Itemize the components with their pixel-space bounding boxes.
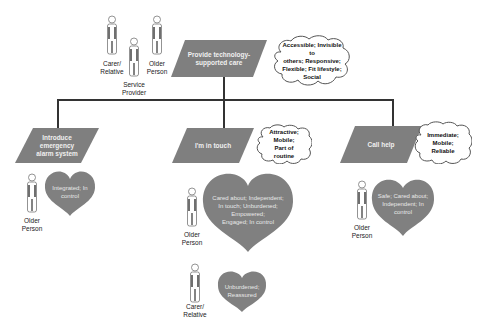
text-line: Independent; In: [377, 200, 429, 208]
text-line: supported care: [188, 59, 250, 67]
text-line: Immediate;: [422, 131, 464, 139]
goal-provide-technology-supported-care: Provide technology-supported care: [171, 40, 267, 77]
label-line: Service: [114, 81, 154, 89]
text-line: Social: [279, 73, 345, 81]
text-line: Integrated; In: [50, 184, 90, 192]
person-icon-older-person: [185, 187, 199, 231]
label-line: Relative: [175, 311, 215, 319]
qualities-text: Accessible; Invisible toothers; Responsi…: [271, 34, 353, 87]
text-line: Part of routine: [264, 144, 304, 160]
label-line: Person: [12, 225, 52, 233]
feeling-text: Cared about; Independent;In touch; Unbur…: [202, 194, 294, 226]
connector-horizontal: [57, 99, 393, 101]
label-older-person: OlderPerson: [12, 217, 52, 233]
label-line: Older: [12, 217, 52, 225]
feeling-heart-integrated: Integrated; Incontrol: [44, 170, 96, 216]
text-line: Mobile; Reliable: [422, 139, 464, 155]
connector-root-down: [223, 76, 225, 99]
label-line: Carer/: [175, 303, 215, 311]
goal-introduce-emergency-alarm-system: Introduce emergencyalarm system: [15, 128, 99, 163]
text-line: control: [377, 208, 429, 216]
goal-text: Introduce emergencyalarm system: [15, 128, 99, 163]
goal-im-in-touch: I'm in touch: [172, 128, 254, 163]
qualities-text: Attractive; Mobile;Part of routine: [256, 124, 312, 164]
text-line: Accessible; Invisible to: [279, 41, 345, 57]
qualities-cloud-root: Accessible; Invisible toothers; Responsi…: [271, 34, 353, 87]
text-line: alarm system: [31, 150, 83, 158]
label-line: Carer/: [92, 60, 132, 68]
connector-middle-down: [223, 99, 225, 128]
feeling-heart-safe: Safe; Cared about;Independent; Incontrol: [371, 178, 435, 236]
text-line: Introduce emergency: [31, 134, 83, 150]
text-line: Safe; Cared about;: [377, 192, 429, 200]
feeling-text: Safe; Cared about;Independent; Incontrol: [371, 192, 435, 216]
person-icon-older-person: [150, 15, 164, 59]
goal-call-help: Call help: [340, 126, 422, 163]
person-icon-older-person: [25, 173, 39, 217]
text-line: Attractive; Mobile;: [264, 128, 304, 144]
feeling-text: Unburdened;Reassured: [217, 283, 267, 299]
label-line: Relative: [92, 68, 132, 76]
connector-left-down: [57, 99, 59, 128]
person-icon-older-person: [355, 180, 369, 224]
goal-text: Provide technology-supported care: [171, 40, 267, 77]
text-line: Flexible; Fit lifestyle;: [279, 65, 345, 73]
text-line: others; Responsive;: [279, 57, 345, 65]
text-line: Provide technology-: [188, 51, 250, 59]
label-service-provider: ServiceProvider: [114, 81, 154, 97]
text-line: In touch; Unburdened;: [208, 202, 288, 210]
text-line: Engaged; In control: [208, 218, 288, 226]
feeling-heart-unburdened: Unburdened;Reassured: [217, 270, 267, 312]
goal-text: I'm in touch: [172, 128, 254, 163]
goal-text: Call help: [340, 126, 422, 163]
text-line: control: [50, 192, 90, 200]
qualities-cloud-call-help: Immediate;Mobile; Reliable: [414, 121, 472, 164]
feeling-heart-cared-about: Cared about; Independent;In touch; Unbur…: [202, 172, 294, 252]
person-icon-carer-relative: [188, 263, 202, 307]
text-line: Empowered;: [208, 210, 288, 218]
text-line: Cared about; Independent;: [208, 194, 288, 202]
person-icon-carer-relative: [105, 15, 119, 59]
feeling-text: Integrated; Incontrol: [44, 184, 96, 200]
text-line: Reassured: [223, 291, 261, 299]
connector-right-down: [392, 99, 394, 128]
label-carer-relative: Carer/Relative: [92, 60, 132, 76]
qualities-text: Immediate;Mobile; Reliable: [414, 121, 472, 164]
qualities-cloud-im-in-touch: Attractive; Mobile;Part of routine: [256, 124, 312, 164]
label-line: Provider: [114, 89, 154, 97]
text-line: Unburdened;: [223, 283, 261, 291]
label-carer-relative: Carer/Relative: [175, 303, 215, 319]
